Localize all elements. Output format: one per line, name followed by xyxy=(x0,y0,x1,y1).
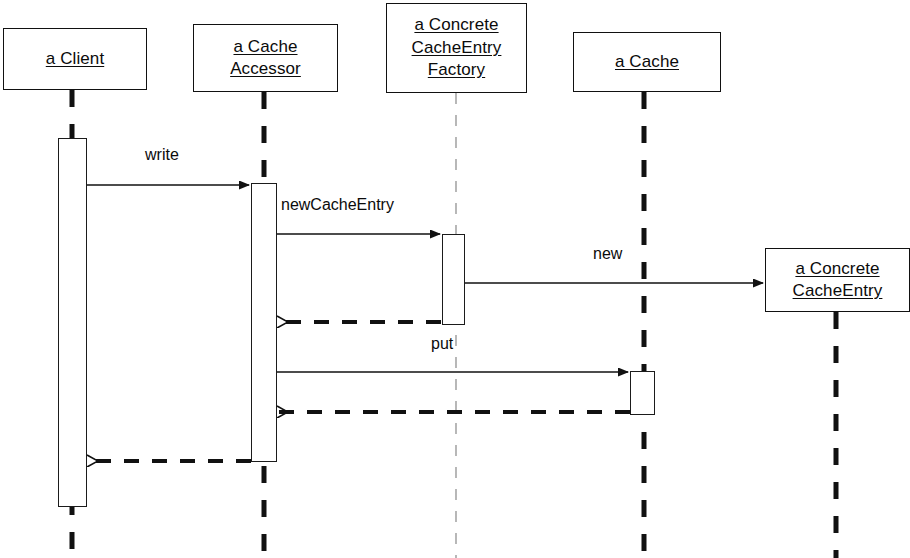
participant-label-line: a Concrete xyxy=(414,14,498,36)
participant-label-line: a Cache xyxy=(233,36,297,58)
message-label-put: put xyxy=(431,335,453,353)
participant-box-cache-accessor[interactable]: a CacheAccessor xyxy=(193,24,338,92)
participant-label-line: a Concrete xyxy=(795,258,879,280)
participant-box-concrete-cacheentry[interactable]: a ConcreteCacheEntry xyxy=(765,248,910,312)
message-label-write: write xyxy=(145,146,179,164)
participant-label-line: CacheEntry xyxy=(793,280,883,302)
client-activation[interactable] xyxy=(58,138,87,507)
factory-activation[interactable] xyxy=(442,234,465,325)
cache-accessor-activation[interactable] xyxy=(251,183,277,462)
participant-box-concrete-cacheentry-factory[interactable]: a ConcreteCacheEntryFactory xyxy=(386,3,527,93)
participant-box-cache[interactable]: a Cache xyxy=(573,32,721,92)
participant-label-line: a Cache xyxy=(615,51,679,73)
participant-label-line: Factory xyxy=(428,59,485,81)
participant-box-client[interactable]: a Client xyxy=(3,28,147,90)
participant-label-line: a Client xyxy=(46,48,104,70)
participant-label-line: CacheEntry xyxy=(412,37,502,59)
message-label-new: new xyxy=(593,245,622,263)
message-label-newCacheEntry: newCacheEntry xyxy=(281,196,394,214)
cache-activation[interactable] xyxy=(630,371,655,415)
messages-group xyxy=(87,185,763,461)
participant-label-line: Accessor xyxy=(230,58,301,80)
